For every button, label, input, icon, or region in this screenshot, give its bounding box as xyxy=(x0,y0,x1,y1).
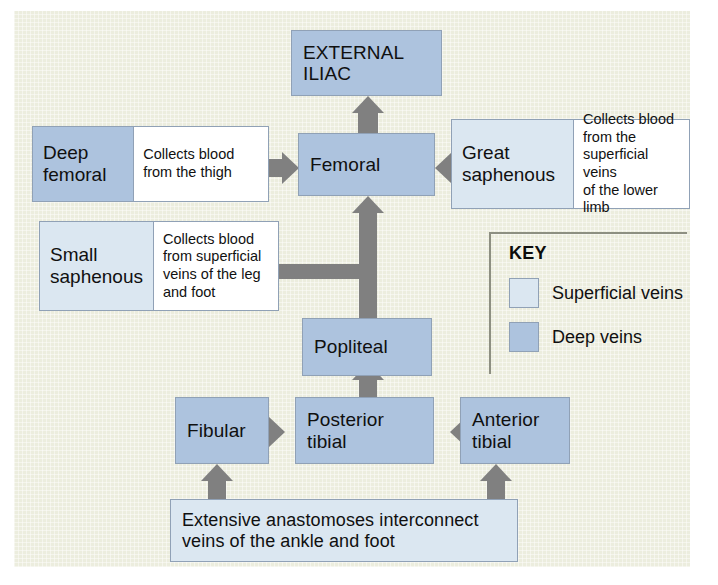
node-popliteal[interactable]: Popliteal xyxy=(302,318,432,376)
node-external-iliac-label: EXTERNAL ILIAC xyxy=(292,42,415,85)
connector-small-saphenous-to-femoral xyxy=(270,264,365,279)
arrow-head-anastomoses-to-anterior-tibial xyxy=(480,464,512,481)
node-deep-femoral[interactable]: Deep femoral xyxy=(33,127,133,201)
diagram-root: EXTERNAL ILIAC Femoral Popliteal Fibular… xyxy=(0,0,718,585)
key-label-deep: Deep veins xyxy=(552,327,642,348)
arrow-head-great-saphenous-to-femoral xyxy=(435,152,452,184)
node-femoral-label: Femoral xyxy=(299,154,391,175)
key-swatch-superficial-icon xyxy=(509,278,539,308)
node-external-iliac[interactable]: EXTERNAL ILIAC xyxy=(291,30,442,96)
node-femoral[interactable]: Femoral xyxy=(298,133,435,196)
arrow-head-popliteal-to-femoral xyxy=(352,196,384,213)
node-great-saphenous[interactable]: Great saphenous xyxy=(452,120,573,208)
key-swatch-deep-icon xyxy=(509,322,539,352)
note-great-saphenous-text: Collects blood from the superficial vein… xyxy=(583,111,680,217)
key-item-deep: Deep veins xyxy=(509,322,642,352)
node-posterior-tibial[interactable]: Posterior tibial xyxy=(295,397,434,464)
note-small-saphenous-text: Collects blood from superficial veins of… xyxy=(163,231,261,302)
node-posterior-tibial-label: Posterior tibial xyxy=(296,409,395,452)
node-popliteal-label: Popliteal xyxy=(303,336,399,357)
note-great-saphenous: Collects blood from the superficial vein… xyxy=(573,120,689,208)
arrow-shaft-femoral-to-external-iliac xyxy=(358,111,378,133)
arrow-head-femoral-to-external-iliac xyxy=(352,96,384,113)
note-deep-femoral-text: Collects blood from the thigh xyxy=(143,146,234,181)
node-great-saphenous-group[interactable]: Great saphenous Collects blood from the … xyxy=(451,119,690,209)
arrow-head-fibular-to-posterior-tibial xyxy=(268,416,285,448)
key-title: KEY xyxy=(509,243,547,264)
node-anterior-tibial-label: Anterior tibial xyxy=(461,409,550,452)
key-item-superficial: Superficial veins xyxy=(509,278,683,308)
node-fibular-label: Fibular xyxy=(176,420,257,441)
node-anterior-tibial[interactable]: Anterior tibial xyxy=(460,397,570,464)
note-small-saphenous: Collects blood from superficial veins of… xyxy=(153,222,278,310)
note-deep-femoral: Collects blood from the thigh xyxy=(133,127,268,201)
node-small-saphenous[interactable]: Small saphenous xyxy=(40,222,153,310)
node-small-saphenous-label: Small saphenous xyxy=(50,244,143,287)
diagram-canvas: EXTERNAL ILIAC Femoral Popliteal Fibular… xyxy=(14,11,690,567)
node-great-saphenous-label: Great saphenous xyxy=(462,142,555,185)
node-deep-femoral-group[interactable]: Deep femoral Collects blood from the thi… xyxy=(32,126,269,202)
key-legend: KEY Superficial veins Deep veins xyxy=(489,232,687,374)
key-label-superficial: Superficial veins xyxy=(552,283,683,304)
arrow-head-anastomoses-to-fibular xyxy=(201,464,233,481)
arrow-head-deep-femoral-to-femoral xyxy=(282,152,299,184)
node-anastomoses-label: Extensive anastomoses interconnect veins… xyxy=(171,510,490,550)
arrow-shaft-anastomoses-to-fibular xyxy=(208,479,226,499)
node-small-saphenous-group[interactable]: Small saphenous Collects blood from supe… xyxy=(39,221,279,311)
arrow-shaft-anastomoses-to-anterior-tibial xyxy=(487,479,505,499)
node-deep-femoral-label: Deep femoral xyxy=(43,142,106,185)
node-fibular[interactable]: Fibular xyxy=(175,397,269,464)
node-anastomoses[interactable]: Extensive anastomoses interconnect veins… xyxy=(170,499,518,562)
